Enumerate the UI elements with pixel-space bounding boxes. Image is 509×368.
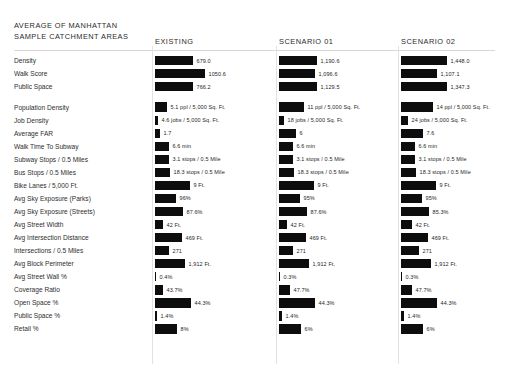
bar-value-label: 469 Ft. xyxy=(310,235,328,241)
category-label: Bike Lanes / 5,000 Ft. xyxy=(14,179,150,192)
bar-row: 6.6 min xyxy=(155,140,279,153)
bar xyxy=(401,233,428,242)
bar-row: 271 xyxy=(401,244,509,257)
bar-row: 8% xyxy=(155,322,279,335)
bar xyxy=(155,324,177,333)
bar xyxy=(279,272,280,281)
bar-row: 18.3 stops / 0.5 Mile xyxy=(401,166,509,179)
bar-row: 44.3% xyxy=(279,296,403,309)
bar-value-label: 9 Ft. xyxy=(440,182,452,188)
bar-value-label: 0.4% xyxy=(160,274,173,280)
bar xyxy=(279,116,284,125)
bar-row: 0.4% xyxy=(155,270,279,283)
header-rule xyxy=(14,50,495,51)
bar xyxy=(155,129,160,138)
bar-value-label: 95% xyxy=(304,195,315,201)
bar xyxy=(279,181,314,190)
bar xyxy=(279,311,282,320)
bar-value-label: 1.4% xyxy=(286,313,299,319)
bar-row: 1.4% xyxy=(401,309,509,322)
bar-value-label: 6.6 min xyxy=(173,143,192,149)
bar-value-label: 1.4% xyxy=(408,313,421,319)
bar-value-label: 1,912 Ft. xyxy=(313,261,336,267)
category-label: Retail % xyxy=(14,322,150,335)
bar xyxy=(155,116,158,125)
bar-value-label: 6 xyxy=(300,130,303,136)
bar-value-label: 47.7% xyxy=(294,287,310,293)
bar-row: 1,096.6 xyxy=(279,67,403,80)
bar xyxy=(155,194,176,203)
category-label: Bus Stops / 0.5 Miles xyxy=(14,166,150,179)
bar-row: 1,129.5 xyxy=(279,80,403,93)
category-label: Avg Block Perimeter xyxy=(14,257,150,270)
bar-value-label: 7.6 xyxy=(427,130,435,136)
bar-row: 95% xyxy=(401,192,509,205)
bar-value-label: 469 Ft. xyxy=(186,235,204,241)
bar-row: 44.3% xyxy=(401,296,509,309)
bar-row: 47.7% xyxy=(279,283,403,296)
category-label: Avg Intersection Distance xyxy=(14,231,150,244)
bar-row: 87.6% xyxy=(279,205,403,218)
bar-value-label: 0.3% xyxy=(284,274,297,280)
bar xyxy=(401,181,436,190)
bar xyxy=(279,69,315,78)
bar-row: 9 Ft. xyxy=(155,179,279,192)
bar xyxy=(401,311,404,320)
bar-row: 6% xyxy=(279,322,403,335)
category-label: Intersections / 0.5 Miles xyxy=(14,244,150,257)
bar-row: 469 Ft. xyxy=(401,231,509,244)
bar-row: 766.2 xyxy=(155,80,279,93)
category-label: Public Space % xyxy=(14,309,150,322)
bar xyxy=(279,82,317,91)
bar xyxy=(279,259,309,268)
bar-value-label: 96% xyxy=(180,195,191,201)
category-label: Population Density xyxy=(14,101,150,114)
bar xyxy=(155,69,205,78)
bar-row: 43.7% xyxy=(155,283,279,296)
bar xyxy=(279,207,307,216)
bar xyxy=(155,56,193,65)
bar-row: 0.3% xyxy=(401,270,509,283)
bar-value-label: 1050.6 xyxy=(209,71,226,77)
category-label: Avg Sky Exposure (Parks) xyxy=(14,192,150,205)
bar-row: 85.3% xyxy=(401,205,509,218)
bar-row: 18.3 stops / 0.5 Mile xyxy=(279,166,403,179)
bar-value-label: 43.7% xyxy=(167,287,183,293)
bar-row: 679.0 xyxy=(155,54,279,67)
bar xyxy=(401,56,447,65)
bar xyxy=(155,246,169,255)
bar-value-label: 18.3 stops / 0.5 Mile xyxy=(174,169,225,175)
bar-row: 1.4% xyxy=(279,309,403,322)
bar-value-label: 42 Ft. xyxy=(291,222,306,228)
bar-row: 87.6% xyxy=(155,205,279,218)
bar xyxy=(279,155,293,164)
bar xyxy=(155,285,163,294)
bar-value-label: 95% xyxy=(426,195,437,201)
bar xyxy=(401,69,437,78)
bar-value-label: 85.3% xyxy=(433,209,449,215)
bar xyxy=(279,246,293,255)
bar-value-label: 1,190.6 xyxy=(321,58,340,64)
bar-group-scenario01: 1,190.61,096.61,129.511 ppl / 5,000 Sq. … xyxy=(279,54,403,335)
bar-value-label: 1.4% xyxy=(161,313,174,319)
bar-value-label: 271 xyxy=(423,248,432,254)
bar xyxy=(155,220,163,229)
bar-row: 1,448.0 xyxy=(401,54,509,67)
column-header-existing: EXISTING xyxy=(155,37,194,46)
category-label-column: DensityWalk ScorePublic SpacePopulation … xyxy=(14,54,150,335)
bar xyxy=(279,102,304,111)
bar xyxy=(279,285,290,294)
bar-row: 1,190.6 xyxy=(279,54,403,67)
bar-value-label: 679.0 xyxy=(197,58,211,64)
category-label: Open Space % xyxy=(14,296,150,309)
page-title-line-2: SAMPLE CATCHMENT AREAS xyxy=(14,31,128,42)
bar-value-label: 47.7% xyxy=(416,287,432,293)
bar-row: 469 Ft. xyxy=(155,231,279,244)
category-label: Coverage Ratio xyxy=(14,283,150,296)
bar-row: 469 Ft. xyxy=(279,231,403,244)
bar xyxy=(401,207,429,216)
bar xyxy=(279,324,301,333)
bar-value-label: 1,096.6 xyxy=(319,71,338,77)
bar xyxy=(155,311,157,320)
bar-value-label: 1,347.3 xyxy=(451,84,470,90)
